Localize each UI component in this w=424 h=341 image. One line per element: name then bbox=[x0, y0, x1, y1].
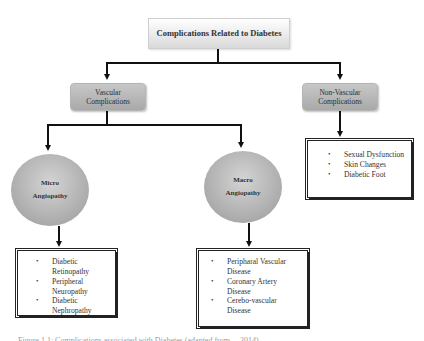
vascular-label: Vascular Complications bbox=[74, 88, 142, 107]
micro-label-line2: Angiopathy bbox=[32, 192, 67, 201]
micro-angiopathy-node: Micro Angiopathy bbox=[11, 154, 89, 226]
macro-angiopathy-list-box: Peripharal Vascular Disease Coronary Art… bbox=[198, 250, 308, 327]
list-item: Sexual Dysfunction bbox=[322, 150, 405, 160]
root-label: Complications Related to Diabetes bbox=[157, 28, 282, 39]
micro-angiopathy-list-box: Diabetic Retinopathy Peripheral Neuropat… bbox=[17, 250, 116, 316]
list-item: Coronary Artery Disease bbox=[205, 277, 301, 297]
list-item: Peripheral Neuropathy bbox=[30, 277, 109, 297]
non-vascular-complications-node: Non-Vascular Complications bbox=[302, 83, 378, 111]
list-item: Diabetic Retinopathy bbox=[30, 257, 109, 277]
non-vascular-list-box: Sexual Dysfunction Skin Changes Diabetic… bbox=[307, 140, 412, 198]
list-item: Diabetic Nephropathy bbox=[30, 296, 109, 316]
macro-label-line2: Angiopathy bbox=[225, 189, 260, 198]
list-item: Diabetic Foot bbox=[322, 170, 405, 180]
root-node: Complications Related to Diabetes bbox=[148, 18, 290, 49]
micro-label-line1: Micro bbox=[41, 179, 59, 188]
list-item: Peripharal Vascular Disease bbox=[205, 257, 301, 277]
list-item: Skin Changes bbox=[322, 160, 405, 170]
macro-label-line1: Macro bbox=[233, 176, 253, 185]
macro-angiopathy-node: Macro Angiopathy bbox=[204, 151, 282, 223]
non-vascular-label: Non-Vascular Complications bbox=[306, 88, 374, 107]
vascular-complications-node: Vascular Complications bbox=[70, 83, 146, 111]
list-item: Cerebo-vascular Disease bbox=[205, 296, 301, 316]
figure-caption: Figure 1.1: Complications associated wit… bbox=[18, 335, 418, 341]
